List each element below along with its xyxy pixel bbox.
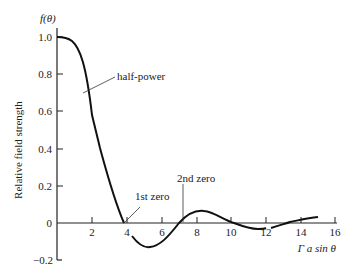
x-tick-label: 14 (296, 226, 308, 238)
chart: 1.0 0.8 0.6 0.4 0.2 0 −0.2 2 4 6 8 10 12… (0, 0, 358, 276)
x-tick-labels: 2 4 6 8 10 12 14 16 (89, 226, 341, 238)
half-power-annotation: half-power (117, 70, 166, 82)
x-tick-label: 8 (194, 226, 200, 238)
x-tick-label: 6 (159, 226, 165, 238)
y-tick-label: 0 (47, 217, 53, 229)
y-tick-label: 0.8 (38, 68, 52, 80)
x-tick-label: 12 (261, 226, 272, 238)
y-tick-label: 0.6 (38, 105, 52, 117)
y-ticks (57, 37, 63, 186)
y-tick-label: −0.2 (33, 254, 53, 266)
pattern-curve (57, 37, 318, 247)
second-zero-annotation: 2nd zero (177, 172, 216, 184)
y-tick-labels: 1.0 0.8 0.6 0.4 0.2 0 −0.2 (33, 31, 53, 266)
x-axis-label: Γ a sin θ (297, 242, 337, 254)
x-tick-label: 10 (226, 226, 238, 238)
first-zero-leader (124, 207, 140, 223)
y-tick-label: 1.0 (38, 31, 52, 43)
x-tick-label: 4 (124, 226, 130, 238)
first-zero-annotation: 1st zero (135, 190, 170, 202)
y-function-label: f(θ) (40, 12, 56, 25)
y-axis-label: Relative field strength (12, 101, 24, 199)
x-tick-label: 16 (330, 226, 342, 238)
y-tick-label: 0.2 (38, 180, 52, 192)
y-tick-label: 0.4 (38, 143, 52, 155)
x-tick-label: 2 (89, 226, 95, 238)
